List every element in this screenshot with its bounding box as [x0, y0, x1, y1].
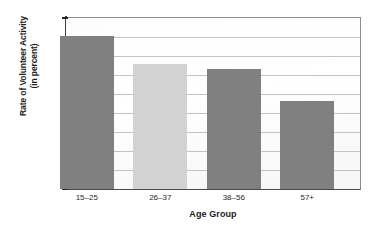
x-axis-tick-label: 57+ — [270, 194, 344, 202]
x-axis-tick-label: 15–25 — [50, 194, 124, 202]
y-axis-title-line-2: (in percent) — [29, 43, 40, 88]
y-axis-title: Rate of Volunteer Activity (in percent) — [15, 0, 43, 146]
bar — [60, 36, 114, 189]
bar — [133, 64, 187, 189]
x-axis-title: Age Group — [66, 209, 360, 219]
bar — [207, 69, 261, 189]
y-axis-title-line-1: Rate of Volunteer Activity — [18, 16, 29, 116]
y-axis-tick-mark — [62, 17, 68, 19]
x-axis-tick-label: 38–56 — [197, 194, 271, 202]
x-axis-tick-label: 26–37 — [123, 194, 197, 202]
plot-area: 454035302520151050 — [66, 17, 361, 190]
bar — [280, 101, 334, 189]
bar-chart: Rate of Volunteer Activity (in percent) … — [0, 0, 371, 234]
